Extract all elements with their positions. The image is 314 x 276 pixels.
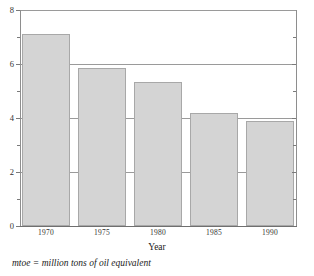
y-axis-line <box>20 10 21 226</box>
gridline-8 <box>20 10 296 11</box>
y-tick-minor-1 <box>17 199 20 200</box>
bar-1975 <box>78 68 126 226</box>
y-tick-4 <box>16 118 20 119</box>
x-tick-label-1970: 1970 <box>22 229 70 237</box>
y-tick-right-2 <box>292 172 296 173</box>
chart-figure: 8 6 4 2 0 1970 1975 1980 1985 1990 Year … <box>0 0 314 276</box>
y-tick-right-minor-7 <box>293 37 296 38</box>
y-tick-right-minor-1 <box>293 199 296 200</box>
y-tick-label-6: 6 <box>0 60 14 69</box>
bar-1990 <box>246 121 294 226</box>
x-tick-label-1990: 1990 <box>246 229 294 237</box>
plot-area <box>20 10 296 226</box>
y-tick-label-2: 2 <box>0 168 14 177</box>
y-tick-right-minor-5 <box>293 91 296 92</box>
y-tick-minor-7 <box>17 37 20 38</box>
chart-caption: mtoe = million tons of oil equivalent <box>12 258 151 268</box>
y-tick-label-0: 0 <box>0 222 14 231</box>
bar-1980 <box>134 82 182 226</box>
y-tick-8 <box>16 10 20 11</box>
y-axis-right-line <box>296 10 297 226</box>
x-tick-label-1985: 1985 <box>190 229 238 237</box>
y-tick-label-8: 8 <box>0 6 14 15</box>
y-tick-minor-5 <box>17 91 20 92</box>
y-tick-minor-3 <box>17 145 20 146</box>
bar-1970 <box>22 34 70 226</box>
x-axis-title: Year <box>0 242 314 252</box>
y-tick-right-4 <box>292 118 296 119</box>
x-axis-line <box>20 226 297 227</box>
y-tick-6 <box>16 64 20 65</box>
bar-1985 <box>190 113 238 226</box>
y-tick-label-4: 4 <box>0 114 14 123</box>
y-tick-0 <box>16 226 20 227</box>
y-tick-right-6 <box>292 64 296 65</box>
y-tick-right-minor-3 <box>293 145 296 146</box>
x-tick-label-1975: 1975 <box>78 229 126 237</box>
x-tick-label-1980: 1980 <box>134 229 182 237</box>
y-tick-2 <box>16 172 20 173</box>
